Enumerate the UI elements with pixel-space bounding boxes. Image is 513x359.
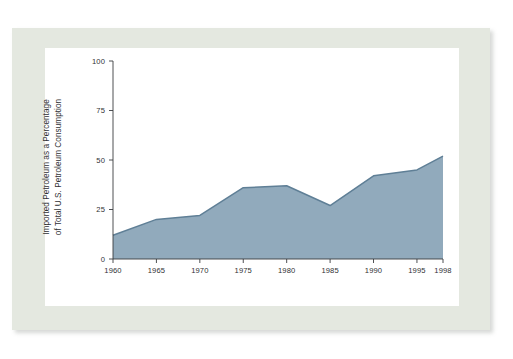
figure-panel: Imported Petroleum as a Percentage of To… (45, 48, 459, 306)
series-area-group (113, 156, 443, 259)
page-text-remnant-line: · · · · ··· · · (0, 0, 513, 1)
x-tick-label: 1975 (226, 266, 260, 275)
y-tick-label: 100 (85, 57, 105, 66)
figure-mat: Imported Petroleum as a Percentage of To… (12, 28, 490, 330)
x-tick-label: 1998 (426, 266, 460, 275)
y-tick-label: 25 (85, 205, 105, 214)
x-tick-label: 1960 (96, 266, 130, 275)
y-tick-label: 0 (85, 255, 105, 264)
series-area-fill (113, 156, 443, 259)
x-tick-label: 1980 (270, 266, 304, 275)
page-text-remnant: · · · · ··· · · (0, 0, 513, 14)
x-tick-label: 1965 (139, 266, 173, 275)
x-tick-label: 1985 (313, 266, 347, 275)
x-tick-label: 1990 (357, 266, 391, 275)
y-tick-label: 50 (85, 156, 105, 165)
x-tick-label: 1970 (183, 266, 217, 275)
area-chart: Imported Petroleum as a Percentage of To… (45, 48, 459, 306)
y-tick-label: 75 (85, 106, 105, 115)
